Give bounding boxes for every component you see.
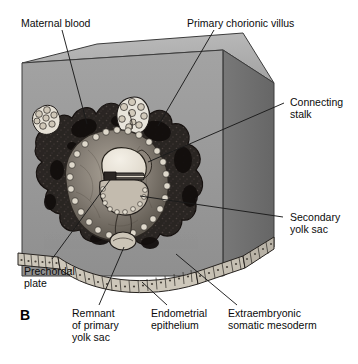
label-secondary-yolk-sac-line2: yolk sac [290, 224, 328, 236]
label-endometrial-epithelium-line2: epithelium [151, 320, 199, 332]
remnant-primary-yolk-sac [110, 232, 136, 250]
label-endometrial-epithelium-line1: Endometrial [151, 308, 207, 320]
label-prechordal-plate-line2: plate [24, 278, 47, 290]
label-connecting-stalk-line2: stalk [290, 109, 312, 121]
label-secondary-yolk-sac-line1: Secondary [290, 212, 340, 224]
label-remnant-line3: yolk sac [72, 332, 110, 344]
label-extraembryonic-line1: Extraembryonic [228, 308, 301, 320]
label-maternal-blood: Maternal blood [21, 18, 90, 30]
label-remnant-line2: of primary [72, 320, 119, 332]
label-connecting-stalk-line1: Connecting [290, 97, 343, 109]
label-remnant-line1: Remnant [72, 308, 115, 320]
label-primary-chorionic-villus: Primary chorionic villus [187, 18, 294, 30]
label-prechordal-plate-line1: Prechordal [24, 266, 75, 278]
label-extraembryonic-line2: somatic mesoderm [228, 320, 317, 332]
panel-letter-b: B [20, 307, 30, 323]
